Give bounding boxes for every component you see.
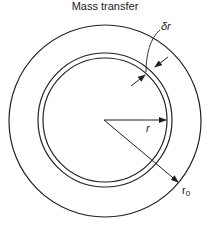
concentric-shell-diagram: [0, 0, 210, 229]
delta-r-leader: [146, 30, 160, 72]
delta-r-arrow-inner: [131, 75, 145, 86]
r0-label: r0: [182, 184, 190, 198]
delta-r-arrow-outer: [155, 57, 168, 67]
delta-r-label: δr: [161, 20, 171, 32]
r-label: r: [146, 122, 150, 134]
r0-label-subscript: 0: [186, 189, 190, 198]
